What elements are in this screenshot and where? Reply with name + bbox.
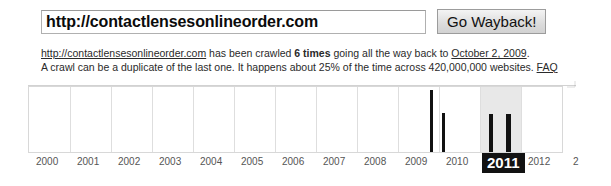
chart-gridline	[111, 87, 112, 152]
chart-gridline	[521, 87, 522, 152]
year-label[interactable]: 2005	[241, 156, 263, 167]
year-label[interactable]: 2003	[159, 156, 181, 167]
year-label[interactable]: 2010	[446, 156, 468, 167]
chart-gridline	[480, 87, 481, 152]
year-label[interactable]: 2000	[36, 156, 58, 167]
crawl-count: 6 times	[294, 47, 330, 59]
crawl-summary-period: .	[527, 47, 530, 59]
duplicate-crawl-note: A crawl can be a duplicate of the last o…	[41, 61, 537, 73]
year-label[interactable]: 2001	[77, 156, 99, 167]
chart-gridline	[275, 87, 276, 152]
crawled-url-link[interactable]: http://contactlensesonlineorder.com	[41, 47, 206, 59]
crawl-summary-line-2: A crawl can be a duplicate of the last o…	[41, 61, 581, 75]
chart-gridline	[439, 87, 440, 152]
crawl-summary-line-1: http://contactlensesonlineorder.com has …	[41, 47, 581, 61]
crawl-summary-mid: has been crawled	[206, 47, 294, 59]
year-label[interactable]: 2006	[282, 156, 304, 167]
faq-link[interactable]: FAQ	[537, 61, 558, 73]
year-label[interactable]: 2008	[364, 156, 386, 167]
year-label[interactable]: 2007	[323, 156, 345, 167]
chart-gridline	[234, 87, 235, 152]
first-crawl-date-link[interactable]: October 2, 2009	[451, 47, 526, 59]
year-label-selected[interactable]: 2011	[482, 153, 525, 173]
year-label[interactable]: 2012	[528, 156, 550, 167]
crawl-summary-after: going all the way back to	[331, 47, 452, 59]
chart-gridline	[193, 87, 194, 152]
chart-gridline	[70, 87, 71, 152]
chart-gridline	[152, 87, 153, 152]
year-label[interactable]: 2009	[405, 156, 427, 167]
year-label[interactable]: 2002	[118, 156, 140, 167]
go-wayback-button[interactable]: Go Wayback!	[437, 9, 546, 34]
year-label[interactable]: 2004	[200, 156, 222, 167]
crawl-bar[interactable]	[430, 90, 433, 152]
crawl-timeline-chart[interactable]	[28, 86, 563, 153]
crawl-bar[interactable]	[489, 114, 493, 152]
crawl-bar[interactable]	[506, 114, 511, 152]
url-input[interactable]	[41, 10, 426, 34]
scroll-arrow-icon	[566, 80, 576, 88]
chart-gridline	[357, 87, 358, 152]
year-label[interactable]: 2	[573, 156, 579, 167]
wayback-search-bar: Go Wayback!	[41, 9, 571, 35]
chart-gridline	[398, 87, 399, 152]
crawl-summary: http://contactlensesonlineorder.com has …	[41, 47, 581, 74]
crawl-bar[interactable]	[442, 113, 445, 152]
selected-year-cell[interactable]	[480, 87, 521, 152]
chart-year-axis: 2000200120022003200420052006200720082009…	[0, 153, 611, 175]
chart-gridline	[316, 87, 317, 152]
